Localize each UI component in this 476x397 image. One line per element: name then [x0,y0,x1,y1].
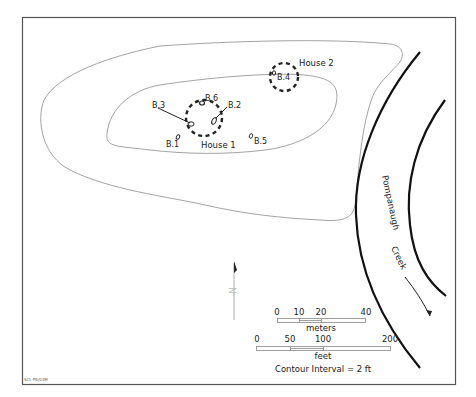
contour-interval-note: Contour Interval = 2 ft [275,364,372,374]
scale-meters-tick-0: 0 [274,307,279,317]
north-label: N [227,287,237,294]
scale-feet-tick-100: 100 [315,334,331,344]
borehole-b2-label: B.2 [228,101,241,110]
scale-meters-tick-10: 10 [294,307,305,317]
borehole-b6-label: B.6 [205,94,218,103]
house-2-label: House 2 [299,58,334,68]
scale-feet-tick-200: 200 [382,334,398,344]
scale-feet-unit: feet [315,351,332,361]
borehole-b1-label: B.1 [166,140,179,149]
borehole-b3-label: B.3 [152,101,165,110]
site-map: Pompanaugh Creek House 1 House 2 B.1 B.2… [0,0,476,397]
scale-feet-tick-0: 0 [254,334,259,344]
borehole-b5-label: B.5 [254,137,267,146]
scale-meters-unit: meters [306,323,337,333]
borehole-b4-label: B.4 [277,73,290,82]
scale-feet-tick-50: 50 [285,334,296,344]
map-credit: SCL-P8/03M [24,377,48,382]
house-1-label: House 1 [201,140,236,150]
scale-meters-tick-40: 40 [361,307,372,317]
scale-meters-tick-20: 20 [316,307,327,317]
